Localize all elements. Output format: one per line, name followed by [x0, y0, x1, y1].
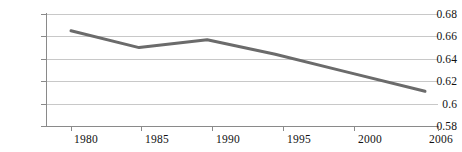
y-tick-mark	[41, 126, 47, 127]
y-tick-mark	[41, 59, 47, 60]
gridline-0-68	[46, 14, 438, 15]
y-axis-label-2: 0.64	[417, 54, 457, 65]
y-axis-label-1: 0.66	[417, 31, 457, 42]
x-tick-mark	[71, 126, 72, 131]
x-axis-label-1980: 1980	[56, 133, 116, 145]
y-tick-mark	[41, 14, 47, 15]
gridline-0-64	[46, 59, 438, 60]
plot-area	[46, 14, 438, 126]
gridline-0-60	[46, 104, 438, 105]
x-tick-mark	[212, 126, 213, 131]
x-tick-mark	[438, 126, 439, 131]
x-axis-label-1995: 1995	[269, 133, 329, 145]
x-tick-mark	[283, 126, 284, 131]
y-axis-label-5: 0.58	[417, 121, 457, 132]
x-axis-label-2000: 2000	[340, 133, 400, 145]
y-axis-label-3: 0.62	[417, 76, 457, 87]
x-tick-mark	[141, 126, 142, 131]
x-axis-line	[46, 126, 438, 127]
y-tick-mark	[41, 36, 47, 37]
y-axis-line	[46, 13, 47, 127]
gridline-0-66	[46, 36, 438, 37]
x-tick-mark	[354, 126, 355, 131]
y-tick-mark	[41, 81, 47, 82]
y-tick-mark	[41, 104, 47, 105]
y-axis-label-4: 0.6	[417, 99, 457, 110]
y-axis-label-0: 0.68	[417, 9, 457, 20]
x-axis-label-1985: 1985	[127, 133, 187, 145]
x-axis-label-1990: 1990	[198, 133, 258, 145]
gridline-0-62	[46, 81, 438, 82]
x-axis-label-2006: 2006	[411, 133, 462, 145]
